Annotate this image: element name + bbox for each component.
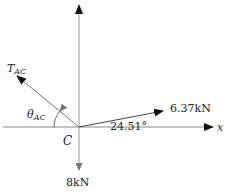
origin-label: C	[63, 134, 72, 148]
theta-ac-label: θAC	[27, 108, 46, 122]
force-angle-label: 24.51°	[110, 120, 147, 133]
theta-ac-arc	[54, 111, 60, 127]
free-body-diagram: TAC θAC C 24.51° 6.37kN x 8kN	[0, 0, 225, 193]
tension-ac-label: TAC	[7, 62, 26, 76]
weight-label: 8kN	[66, 176, 90, 189]
x-axis-label: x	[217, 121, 224, 134]
force-6-37kN-label: 6.37kN	[170, 102, 211, 115]
